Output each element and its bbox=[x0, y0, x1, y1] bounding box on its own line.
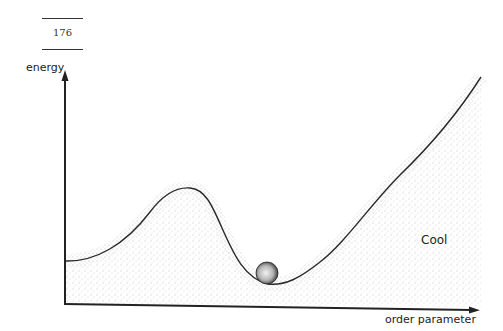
y-axis-label: energy bbox=[26, 61, 64, 74]
energy-landscape-diagram bbox=[0, 0, 503, 331]
ball-icon bbox=[256, 262, 278, 284]
x-axis-label: order parameter bbox=[385, 313, 476, 326]
state-label: Cool bbox=[421, 233, 447, 247]
